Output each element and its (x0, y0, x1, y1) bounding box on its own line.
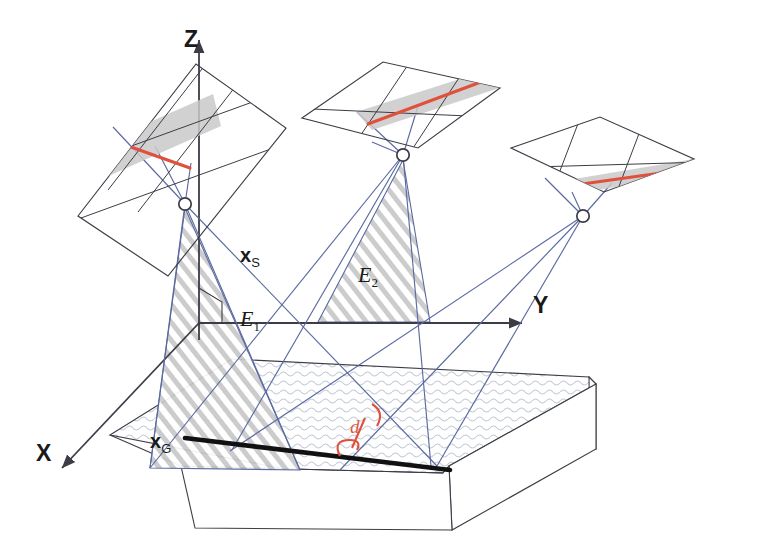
point-label-xs-base: x (240, 244, 251, 266)
axis-label-x: X (36, 440, 52, 467)
point-label-xg-sub: G (161, 441, 171, 456)
distance-label-d: d (350, 416, 360, 438)
plane-label-e2: E2 (358, 262, 378, 291)
image-plane-middle (290, 50, 530, 168)
figure-canvas: Z Y X xS xG E1 E2 d (0, 0, 761, 559)
plane-label-e1-sub: 1 (253, 319, 260, 334)
point-label-xs-sub: S (251, 255, 260, 270)
plane-label-e2-base: E (358, 262, 371, 287)
plane-label-e2-sub: 2 (371, 275, 378, 290)
plane-label-e1-base: E (240, 306, 253, 331)
ground-front-face (181, 466, 452, 530)
camera-center-3 (577, 210, 589, 222)
point-label-xg-base: x (150, 430, 161, 452)
diagram-svg (0, 0, 761, 559)
point-label-xg: xG (150, 430, 171, 456)
camera-center-1 (179, 198, 191, 210)
image-plane-right (500, 108, 706, 210)
epipolar-wedge-2 (318, 160, 430, 322)
axis-label-y: Y (533, 292, 549, 319)
image-plane-left (60, 38, 290, 276)
plane-label-e1: E1 (240, 306, 260, 335)
camera-center-2 (397, 149, 409, 161)
axis-label-z: Z (184, 26, 199, 53)
ray-c3-to-plane-a (545, 178, 583, 216)
point-label-xs: xS (240, 244, 260, 270)
